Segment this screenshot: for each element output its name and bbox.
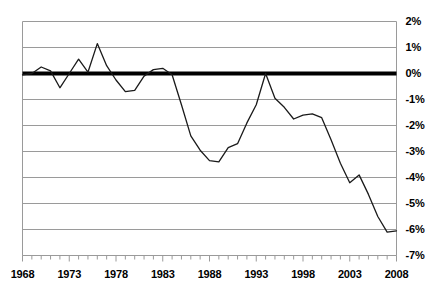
chart-plot-area: [0, 0, 433, 299]
x-axis-tick-label: 2003: [330, 268, 370, 280]
x-axis-tick-label: 1998: [283, 268, 323, 280]
line-chart: 2%1%0%-1%-2%-3%-4%-5%-6%-7% 196819731978…: [0, 0, 433, 299]
plot-frame: [23, 22, 397, 256]
y-axis-tick-label: -6%: [406, 223, 425, 235]
x-axis-tick-label: 1978: [96, 268, 136, 280]
y-axis-tick-label: -4%: [406, 171, 425, 183]
y-axis-tick-label: -1%: [406, 93, 425, 105]
x-axis-tick-label: 2008: [377, 268, 417, 280]
y-axis-tick-label: -2%: [406, 119, 425, 131]
y-axis-tick-label: 0%: [406, 67, 422, 79]
y-axis-tick-label: -5%: [406, 197, 425, 209]
x-axis-tick-label: 1968: [3, 268, 43, 280]
x-axis-ticks: [23, 256, 397, 262]
x-axis-tick-label: 1973: [49, 268, 89, 280]
gridlines: [23, 22, 397, 256]
x-axis-tick-label: 1993: [236, 268, 276, 280]
y-axis-tick-label: -7%: [406, 249, 425, 261]
x-axis-tick-label: 1983: [143, 268, 183, 280]
y-axis-tick-label: 2%: [406, 15, 422, 27]
y-axis-tick-label: -3%: [406, 145, 425, 157]
x-axis-tick-label: 1988: [190, 268, 230, 280]
y-axis-tick-label: 1%: [406, 41, 422, 53]
